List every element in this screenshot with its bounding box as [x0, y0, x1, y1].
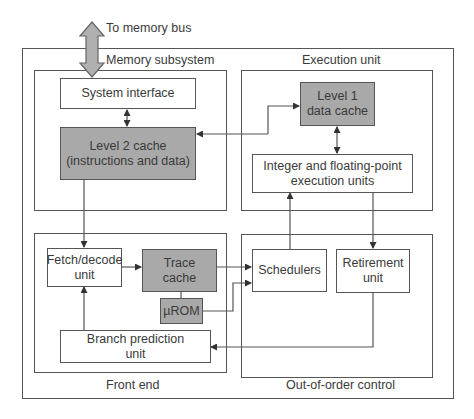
fetch-decode-label-line2: unit	[74, 268, 94, 283]
urom-label: µROM	[163, 304, 199, 319]
branch-prediction-label-line1: Branch prediction	[87, 332, 184, 347]
retirement-label-line2: unit	[363, 271, 383, 286]
memory-bus-arrow	[80, 22, 104, 77]
level2-cache-block: Level 2 cache (instructions and data)	[60, 127, 196, 180]
fetch-decode-label-line1: Fetch/decode	[47, 253, 123, 268]
trace-cache-label-line2: cache	[163, 271, 196, 286]
system-interface-label: System interface	[81, 86, 174, 101]
trace-cache-label-line1: Trace	[164, 256, 196, 271]
trace-cache-block: Trace cache	[142, 249, 217, 292]
level1-cache-label-line2: data cache	[307, 104, 368, 119]
schedulers-label: Schedulers	[258, 263, 321, 278]
branch-prediction-label-line2: unit	[125, 347, 145, 362]
urom-block: µROM	[160, 298, 203, 324]
level1-data-cache-block: Level 1 data cache	[300, 82, 375, 126]
retirement-label-line1: Retirement	[342, 256, 403, 271]
retirement-unit-block: Retirement unit	[336, 249, 410, 293]
branch-prediction-block: Branch prediction unit	[60, 330, 211, 363]
schedulers-block: Schedulers	[252, 249, 327, 292]
level2-cache-label-line1: Level 2 cache	[89, 139, 166, 154]
integer-fp-execution-block: Integer and floating-point execution uni…	[252, 154, 413, 193]
integer-fp-label-line1: Integer and floating-point	[263, 159, 401, 174]
level2-cache-label-line2: (instructions and data)	[66, 154, 190, 169]
integer-fp-label-line2: execution units	[291, 174, 374, 189]
fetch-decode-block: Fetch/decode unit	[47, 248, 122, 287]
level1-cache-label-line1: Level 1	[317, 89, 357, 104]
system-interface-block: System interface	[60, 78, 196, 109]
